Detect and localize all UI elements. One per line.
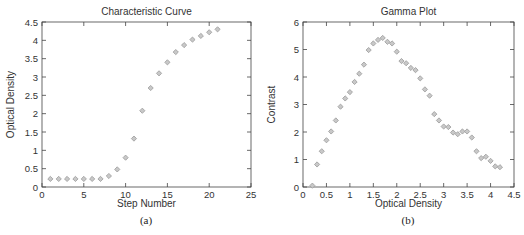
data-point-diamond-icon — [408, 65, 413, 70]
data-point-diamond-icon — [98, 176, 103, 181]
y-tick-label: 0 — [33, 182, 38, 193]
y-tick-label: 4 — [294, 72, 299, 83]
data-point-diamond-icon — [422, 87, 427, 92]
y-tick-label: 2 — [33, 108, 38, 119]
data-point-diamond-icon — [347, 90, 352, 95]
y-tick-label: 2 — [294, 127, 299, 138]
x-axis-label: Step Number — [117, 198, 177, 209]
data-point-diamond-icon — [446, 124, 451, 129]
y-tick-label: 4.5 — [25, 17, 38, 28]
data-point-diamond-icon — [182, 43, 187, 48]
y-tick-label: 1 — [294, 154, 299, 165]
data-point-diamond-icon — [488, 158, 493, 163]
data-point-diamond-icon — [469, 135, 474, 140]
y-tick-label: 3 — [294, 99, 299, 110]
data-point-diamond-icon — [483, 154, 488, 159]
x-tick-label: 20 — [204, 189, 215, 200]
x-axis-label: Optical Density — [375, 198, 442, 209]
data-point-diamond-icon — [418, 76, 423, 81]
data-point-diamond-icon — [474, 149, 479, 154]
y-tick-label: 0.5 — [25, 163, 38, 174]
data-point-diamond-icon — [366, 47, 371, 52]
data-point-diamond-icon — [413, 68, 418, 73]
data-point-diamond-icon — [140, 108, 145, 113]
x-tick-label: 25 — [246, 189, 257, 200]
data-point-diamond-icon — [479, 156, 484, 161]
data-point-diamond-icon — [73, 176, 78, 181]
data-point-diamond-icon — [343, 96, 348, 101]
data-point-diamond-icon — [493, 164, 498, 169]
y-tick-label: 2.5 — [25, 90, 38, 101]
y-tick-label: 6 — [294, 17, 299, 28]
x-tick-label: 3.5 — [461, 189, 474, 200]
data-point-diamond-icon — [56, 176, 61, 181]
gamma-plot-chart: 00.511.522.533.544.50123456Gamma PlotOpt… — [266, 6, 521, 227]
characteristic-curve-chart: 051015202500.511.522.533.544.5Characteri… — [5, 6, 256, 227]
data-point-diamond-icon — [338, 104, 343, 109]
data-point-diamond-icon — [361, 62, 366, 67]
data-point-diamond-icon — [352, 79, 357, 84]
data-point-diamond-icon — [465, 129, 470, 134]
plot-frame — [303, 22, 514, 187]
y-axis-label: Optical Density — [5, 71, 16, 138]
data-point-diamond-icon — [207, 30, 212, 35]
data-point-diamond-icon — [394, 49, 399, 54]
data-point-diamond-icon — [371, 41, 376, 46]
chart-title: Characteristic Curve — [101, 6, 192, 17]
x-tick-label: 0.5 — [320, 189, 333, 200]
data-point-diamond-icon — [48, 176, 53, 181]
x-tick-label: 5 — [81, 189, 86, 200]
data-point-diamond-icon — [123, 155, 128, 160]
data-point-diamond-icon — [441, 124, 446, 129]
data-point-diamond-icon — [165, 60, 170, 65]
y-axis-label: Contrast — [266, 85, 277, 123]
data-point-diamond-icon — [324, 138, 329, 143]
data-point-diamond-icon — [173, 49, 178, 54]
data-point-diamond-icon — [427, 93, 432, 98]
x-tick-label: 0 — [300, 189, 305, 200]
x-tick-label: 4.5 — [507, 189, 520, 200]
data-point-diamond-icon — [357, 71, 362, 76]
figure-caption: (b) — [402, 214, 415, 227]
data-point-diamond-icon — [404, 61, 409, 66]
data-point-diamond-icon — [131, 136, 136, 141]
y-tick-label: 5 — [294, 44, 299, 55]
x-tick-label: 0 — [39, 189, 44, 200]
data-point-diamond-icon — [432, 112, 437, 117]
figure: 051015202500.511.522.533.544.5Characteri… — [0, 0, 524, 235]
data-point-diamond-icon — [190, 37, 195, 42]
data-point-diamond-icon — [64, 176, 69, 181]
data-point-diamond-icon — [319, 149, 324, 154]
data-point-diamond-icon — [106, 173, 111, 178]
data-point-diamond-icon — [399, 58, 404, 63]
figure-caption: (a) — [140, 214, 153, 227]
x-tick-label: 1 — [347, 189, 352, 200]
data-point-diamond-icon — [215, 27, 220, 32]
y-tick-label: 3 — [33, 72, 38, 83]
y-tick-label: 4 — [33, 35, 38, 46]
data-point-diamond-icon — [156, 71, 161, 76]
data-point-diamond-icon — [497, 165, 502, 170]
y-tick-label: 1.5 — [25, 127, 38, 138]
data-point-diamond-icon — [148, 85, 153, 90]
data-point-diamond-icon — [115, 167, 120, 172]
plot-frame — [42, 22, 251, 187]
data-point-diamond-icon — [310, 183, 315, 188]
data-point-diamond-icon — [329, 129, 334, 134]
data-point-diamond-icon — [333, 118, 338, 123]
data-point-diamond-icon — [436, 118, 441, 123]
y-tick-label: 0 — [294, 182, 299, 193]
x-tick-label: 4 — [488, 189, 493, 200]
data-point-diamond-icon — [81, 176, 86, 181]
chart-title: Gamma Plot — [381, 6, 437, 17]
y-tick-label: 1 — [33, 145, 38, 156]
y-tick-label: 3.5 — [25, 53, 38, 64]
data-point-diamond-icon — [90, 176, 95, 181]
data-point-diamond-icon — [314, 162, 319, 167]
data-point-diamond-icon — [198, 33, 203, 38]
